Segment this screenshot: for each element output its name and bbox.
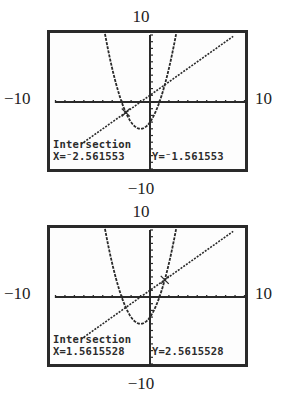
calculator-screen: Intersection X=1.5615528 Y=2.5615528	[47, 225, 248, 367]
linear-function-line	[81, 36, 233, 144]
ymin-label: −10	[0, 375, 282, 392]
parabola-curve	[100, 225, 181, 324]
readout-y-value: Y=⁻1.561553	[152, 151, 224, 162]
xmin-label: −10	[4, 285, 31, 302]
readout-x-value: X=1.5615528	[53, 346, 125, 357]
readout-y-value: Y=2.5615528	[152, 346, 224, 357]
parabola-curve	[100, 30, 181, 129]
readout-title: Intersection	[53, 139, 131, 150]
ymax-label: 10	[0, 8, 282, 25]
xmax-label: 10	[255, 285, 272, 302]
readout-title: Intersection	[53, 334, 131, 345]
readout-x-value: X=⁻2.561553	[53, 151, 125, 162]
calculator-panel-1: 10 −10 10 −10 Intersection X=⁻2.561553 Y…	[0, 0, 282, 195]
linear-function-line	[81, 231, 233, 339]
ymax-label: 10	[0, 203, 282, 220]
calculator-panel-2: 10 −10 10 −10 Intersection X=1.5615528 Y…	[0, 195, 282, 390]
calculator-screen: Intersection X=⁻2.561553 Y=⁻1.561553	[47, 30, 248, 172]
xmax-label: 10	[255, 90, 272, 107]
xmin-label: −10	[4, 90, 31, 107]
